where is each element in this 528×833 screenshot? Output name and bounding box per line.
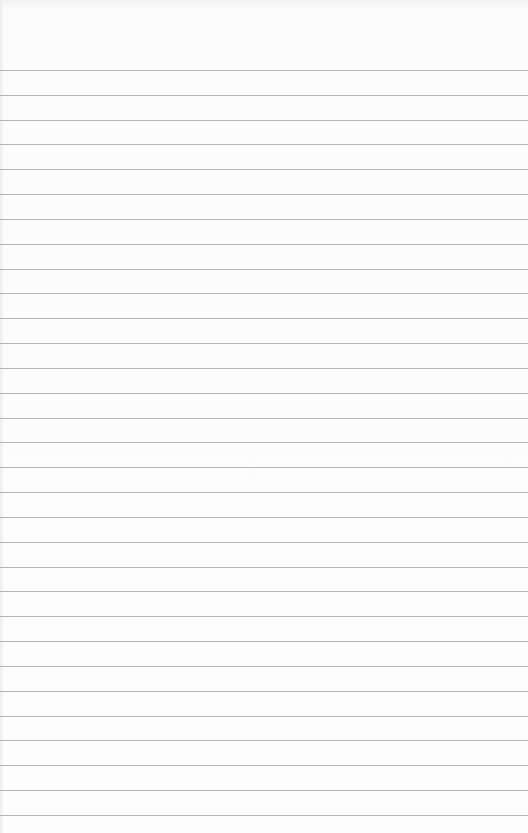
- ruled-line: [0, 393, 528, 394]
- ruled-line: [0, 293, 528, 294]
- ruled-line: [0, 169, 528, 170]
- ruled-line: [0, 144, 528, 145]
- ruled-line: [0, 492, 528, 493]
- ruled-line: [0, 691, 528, 692]
- ruled-line: [0, 318, 528, 319]
- ruled-line: [0, 368, 528, 369]
- ruled-line: [0, 244, 528, 245]
- ruled-line: [0, 95, 528, 96]
- ruled-line: [0, 716, 528, 717]
- ruled-line: [0, 120, 528, 121]
- ruled-line: [0, 467, 528, 468]
- ruled-line: [0, 815, 528, 816]
- ruled-line: [0, 740, 528, 741]
- ruled-line: [0, 666, 528, 667]
- ruled-line: [0, 616, 528, 617]
- ruled-line: [0, 765, 528, 766]
- ruled-line: [0, 567, 528, 568]
- ruled-line: [0, 194, 528, 195]
- ruled-line: [0, 269, 528, 270]
- ruled-line: [0, 790, 528, 791]
- ruled-line: [0, 641, 528, 642]
- ruled-line: [0, 442, 528, 443]
- ruled-line: [0, 418, 528, 419]
- paper-edge-shadow: [0, 0, 4, 833]
- lined-paper-page: [0, 0, 528, 833]
- ruled-line: [0, 343, 528, 344]
- ruled-line: [0, 517, 528, 518]
- ruled-line: [0, 70, 528, 71]
- ruled-line: [0, 219, 528, 220]
- ruled-line: [0, 542, 528, 543]
- ruled-line: [0, 591, 528, 592]
